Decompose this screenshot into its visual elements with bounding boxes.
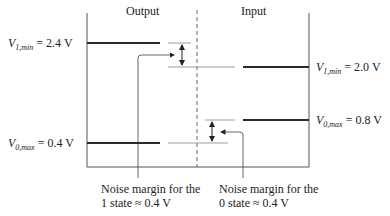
v0-subscript: 0,max — [323, 120, 342, 129]
v1-subscript: 1,min — [323, 67, 341, 76]
input-v1-label: V1,min = 2.0 V — [316, 60, 381, 79]
output-title: Output — [126, 4, 159, 18]
note-line2: 0 state ≈ 0.4 V — [219, 196, 318, 210]
v1-value: = 2.4 V — [36, 36, 72, 50]
margin0-leader — [221, 132, 243, 178]
note-line1: Noise margin for the — [219, 182, 318, 196]
v1-subscript: 1,min — [15, 43, 33, 52]
output-v0-label: V0,max = 0.4 V — [8, 136, 74, 155]
v0-value: = 0.4 V — [38, 136, 74, 150]
v1-value: = 2.0 V — [344, 60, 380, 74]
margin1-leader — [138, 55, 174, 178]
noise-margin-0-note: Noise margin for the 0 state ≈ 0.4 V — [219, 182, 318, 210]
note-line1: Noise margin for the — [101, 182, 200, 196]
noise-margin-1-note: Noise margin for the 1 state ≈ 0.4 V — [101, 182, 200, 210]
output-v1-label: V1,min = 2.4 V — [8, 36, 73, 55]
note-line2: 1 state ≈ 0.4 V — [101, 196, 200, 210]
input-v0-label: V0,max = 0.8 V — [316, 113, 382, 132]
v0-value: = 0.8 V — [346, 113, 382, 127]
v0-subscript: 0,max — [15, 143, 34, 152]
input-title: Input — [241, 4, 266, 18]
